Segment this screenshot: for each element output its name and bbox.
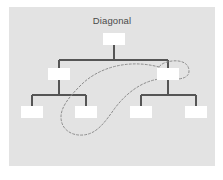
tree-node-root[interactable] [103, 33, 125, 45]
diagram-panel: Diagonal [9, 7, 215, 166]
tree-diagram-canvas [9, 7, 215, 166]
tree-node-leaf2[interactable] [75, 106, 97, 118]
tree-node-l2b[interactable] [157, 68, 179, 80]
tree-node-l2a[interactable] [48, 68, 70, 80]
tree-node-leaf3[interactable] [130, 106, 152, 118]
figure-root: Diagonal [0, 0, 223, 180]
tree-node-leaf1[interactable] [21, 106, 43, 118]
tree-node-leaf4[interactable] [185, 106, 207, 118]
